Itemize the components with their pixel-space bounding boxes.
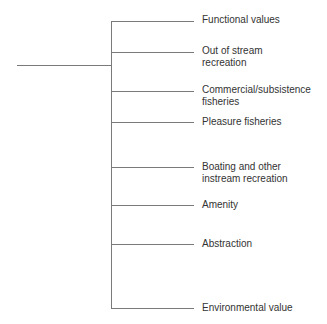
label-line: Pleasure fisheries [202,116,281,128]
label-pleasure-fisheries: Pleasure fisheries [202,116,281,128]
label-line: Amenity [202,199,238,211]
label-line: Commercial/subsistence [202,84,311,96]
label-line: recreation [202,57,263,69]
label-line: fisheries [202,96,311,108]
value-tree-diagram: Functional values Out of stream recreati… [0,0,327,324]
label-boating-instream-recreation: Boating and other instream recreation [202,161,288,185]
branch-line-pleasure-fisheries [111,122,194,123]
label-line: Out of stream [202,45,263,57]
label-amenity: Amenity [202,199,238,211]
branch-line-environmental-value [111,308,194,309]
label-line: instream recreation [202,173,288,185]
label-line: Functional values [202,14,280,26]
label-environmental-value: Environmental value [202,302,293,314]
root-stem-line [17,65,111,66]
branch-line-out-of-stream-recreation [111,52,194,53]
label-line: Abstraction [202,238,252,250]
label-commercial-subsistence-fisheries: Commercial/subsistence fisheries [202,84,311,108]
branch-line-abstraction [111,244,194,245]
label-functional-values: Functional values [202,14,280,26]
label-line: Boating and other [202,161,288,173]
label-line: Environmental value [202,302,293,314]
label-abstraction: Abstraction [202,238,252,250]
branch-line-amenity [111,205,194,206]
branch-line-commercial-subsistence-fisheries [111,91,194,92]
label-out-of-stream-recreation: Out of stream recreation [202,45,263,69]
branch-line-boating-instream-recreation [111,167,194,168]
branch-line-functional-values [111,21,194,22]
trunk-line [111,21,112,309]
